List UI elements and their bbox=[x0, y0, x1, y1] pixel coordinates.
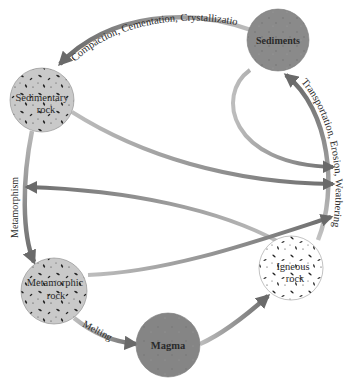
node-metamorphic-rock: Metamorphic rock bbox=[21, 258, 87, 324]
arrow-crystallization-igneous bbox=[200, 296, 268, 344]
rock-cycle-diagram: Compaction, Cementation, Crystallizatio … bbox=[0, 0, 363, 388]
arrow-igneous-to-metamorphism bbox=[27, 187, 279, 242]
node-sediments: Sediments bbox=[247, 9, 309, 71]
svg-text:rock: rock bbox=[286, 273, 305, 284]
svg-text:rock: rock bbox=[37, 104, 56, 115]
node-igneous-rock: Igneous rock bbox=[259, 236, 323, 300]
svg-text:Metamorphic: Metamorphic bbox=[27, 277, 84, 288]
label-compaction: Compaction, Cementation, Crystallizatio bbox=[69, 12, 239, 64]
svg-text:Igneous: Igneous bbox=[276, 261, 309, 272]
arrow-sedimentary-to-weathering bbox=[72, 112, 333, 184]
svg-text:Sedimentary: Sedimentary bbox=[15, 92, 69, 103]
label-melting: Melting bbox=[81, 318, 114, 343]
svg-text:Magma: Magma bbox=[151, 340, 186, 351]
node-magma: Magma bbox=[136, 313, 200, 377]
node-sedimentary-rock: Sedimentary rock bbox=[10, 68, 74, 132]
svg-text:rock: rock bbox=[47, 290, 66, 301]
svg-text:Sediments: Sediments bbox=[256, 35, 300, 46]
arrow-metamorphism bbox=[25, 131, 34, 262]
label-metamorphism: Metamorphism bbox=[9, 177, 20, 238]
